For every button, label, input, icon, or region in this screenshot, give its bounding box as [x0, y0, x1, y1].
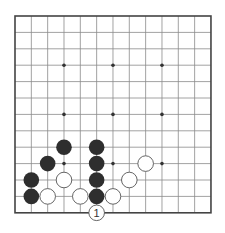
white-stone — [105, 189, 121, 205]
white-stone — [40, 189, 56, 205]
go-board[interactable]: 1 — [0, 0, 225, 233]
star-point — [160, 63, 164, 67]
black-stone — [40, 156, 56, 172]
white-stone — [138, 156, 154, 172]
black-stone — [89, 172, 105, 188]
white-stone — [56, 172, 72, 188]
star-point — [62, 63, 66, 67]
black-stone — [56, 139, 72, 155]
star-point — [160, 113, 164, 117]
star-point — [160, 162, 164, 166]
star-point — [62, 113, 66, 117]
star-point — [62, 162, 66, 166]
white-stone — [73, 189, 89, 205]
black-stone — [89, 156, 105, 172]
black-stone — [24, 172, 40, 188]
star-point — [111, 113, 115, 117]
white-stone: 1 — [89, 205, 105, 221]
black-stone — [89, 139, 105, 155]
black-stone — [24, 189, 40, 205]
star-point — [111, 162, 115, 166]
star-point — [111, 63, 115, 67]
white-stone — [122, 172, 138, 188]
move-number-label: 1 — [94, 207, 100, 219]
black-stone — [89, 189, 105, 205]
